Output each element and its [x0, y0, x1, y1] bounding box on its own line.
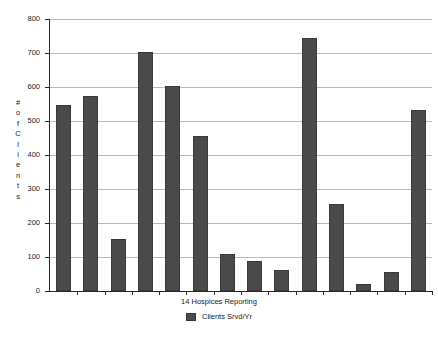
bar: [138, 52, 153, 291]
gridline: [50, 121, 432, 122]
y-tick-label: 400: [14, 151, 40, 159]
bar: [356, 284, 371, 291]
y-axis-title-char: C: [11, 129, 25, 139]
x-tick-mark: [323, 291, 324, 295]
bar: [111, 239, 126, 291]
bar: [411, 110, 426, 291]
bar: [247, 261, 262, 291]
y-tick-label: 700: [14, 49, 40, 57]
x-tick-mark: [268, 291, 269, 295]
gridline: [50, 223, 432, 224]
x-tick-mark: [377, 291, 378, 295]
gridline: [50, 189, 432, 190]
y-axis-title-char: #: [11, 98, 25, 108]
x-tick-mark: [405, 291, 406, 295]
gridline: [50, 19, 432, 20]
bar: [83, 96, 98, 291]
bar: [384, 272, 399, 291]
bar: [165, 86, 180, 291]
x-tick-mark: [77, 291, 78, 295]
bar: [220, 254, 235, 291]
x-tick-mark: [214, 291, 215, 295]
bar: [56, 105, 71, 291]
y-axis-title-char: n: [11, 171, 25, 181]
bar: [193, 136, 208, 291]
y-tick-label: 300: [14, 185, 40, 193]
y-axis-title-char: e: [11, 160, 25, 170]
y-tick-label: 600: [14, 83, 40, 91]
legend-label: Clients Srvd/Yr: [202, 312, 252, 321]
gridline: [50, 257, 432, 258]
x-tick-mark: [296, 291, 297, 295]
plot-area: [50, 19, 432, 291]
x-tick-mark: [132, 291, 133, 295]
y-tick-label: 200: [14, 219, 40, 227]
gridline: [50, 87, 432, 88]
series-color-swatch: [186, 313, 196, 321]
y-tick-label: 800: [14, 15, 40, 23]
x-tick-mark: [186, 291, 187, 295]
bar: [302, 38, 317, 291]
bar: [329, 204, 344, 291]
y-axis-title-char: l: [11, 140, 25, 150]
chart-legend: Clients Srvd/Yr: [0, 312, 438, 321]
x-tick-mark: [105, 291, 106, 295]
x-tick-mark: [432, 291, 433, 295]
gridline: [50, 155, 432, 156]
y-tick-label: 0: [14, 287, 40, 295]
y-axis-title-char: s: [11, 192, 25, 202]
x-axis-title: 14 Hospices Reporting: [0, 297, 438, 306]
x-tick-mark: [241, 291, 242, 295]
x-tick-mark: [350, 291, 351, 295]
y-tick-label: 100: [14, 253, 40, 261]
gridline: [50, 53, 432, 54]
bar: [274, 270, 289, 291]
bar-chart: #ofClients 0100200300400500600700800 14 …: [0, 0, 438, 339]
y-tick-label: 500: [14, 117, 40, 125]
x-tick-mark: [159, 291, 160, 295]
